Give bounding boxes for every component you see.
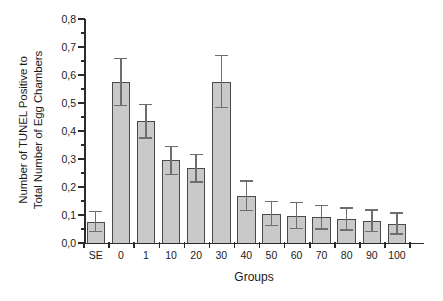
x-axis-tick-label: 70 [316,249,328,261]
error-bar-cap-upper [315,205,328,206]
bar-group [262,19,281,243]
error-bar-cap-lower [215,107,228,108]
error-bar-line [346,208,347,230]
error-bar-cap-upper [265,201,278,202]
x-axis-tick [108,242,109,248]
bar-group [87,19,106,243]
error-bar-line [271,202,272,226]
error-bar-line [246,181,247,211]
bar-group [112,19,131,243]
error-bar-cap-lower [240,210,253,211]
error-bar-cap-upper [89,211,102,212]
x-axis-tick-label: 1 [143,249,149,261]
bar [112,82,131,243]
error-bar-cap-lower [290,228,303,229]
x-axis-tick [133,242,134,248]
error-bar-cap-upper [165,146,178,147]
x-axis-title: Groups [84,270,424,284]
bar-group [212,19,231,243]
x-axis-tick [309,242,310,248]
error-bar-cap-upper [190,154,203,155]
error-bar-line [296,202,297,228]
bar-group [137,19,156,243]
error-bar-line [95,212,96,232]
bar-group [162,19,181,243]
error-bar-line [321,205,322,229]
x-axis-tick-label: 20 [190,249,202,261]
y-axis-tick-label: 0,2 [46,182,76,193]
error-bar-cap-upper [340,207,353,208]
error-bar-line [170,146,171,174]
x-axis-tick [259,242,260,248]
x-axis-tick-label: 0 [118,249,124,261]
error-bar-cap-lower [365,231,378,232]
y-axis-tick-label: 0,8 [46,14,76,25]
error-bar-cap-lower [89,231,102,232]
y-axis-tick-label: 0,5 [46,98,76,109]
y-axis-title-line-1: Number of TUNEL Positive to [16,51,31,209]
x-axis-tick [359,242,360,248]
error-bar-cap-lower [315,228,328,229]
error-bar-cap-lower [165,174,178,175]
y-axis-tick-label: 0,0 [46,238,76,249]
bar-group [363,19,382,243]
chart-figure: Number of TUNEL Positive to Total Number… [0,0,443,301]
plot-area [84,19,424,243]
error-bar-cap-upper [139,104,152,105]
x-axis-tick-label: 80 [341,249,353,261]
error-bar-cap-lower [390,233,403,234]
y-axis-tick-label: 0,3 [46,154,76,165]
x-axis-tick [209,242,210,248]
error-bar-cap-upper [114,58,127,59]
error-bar-line [120,58,121,105]
error-bar-cap-upper [390,212,403,213]
error-bar-line [371,210,372,232]
x-axis-tick [83,242,84,248]
x-axis-tick-label: 30 [215,249,227,261]
bar-group [187,19,206,243]
error-bar-cap-upper [240,180,253,181]
x-axis-tick [234,242,235,248]
x-axis-tick [284,242,285,248]
error-bar-line [221,55,222,107]
error-bar-cap-lower [139,137,152,138]
error-bar-line [195,154,196,182]
error-bar-cap-lower [190,181,203,182]
error-bar-cap-upper [215,55,228,56]
x-axis-tick [159,242,160,248]
error-bar-cap-lower [114,105,127,106]
x-axis-tick [409,242,410,248]
x-axis-tick-label: 90 [366,249,378,261]
y-axis-tick-label: 0,7 [46,42,76,53]
x-axis-tick-label: 60 [291,249,303,261]
x-axis-tick [184,242,185,248]
x-axis-tick [384,242,385,248]
error-bar-line [145,104,146,138]
error-bar-cap-upper [290,202,303,203]
y-axis-tick-labels: 0,00,10,20,30,40,50,60,70,8 [44,0,76,260]
bar [137,121,156,243]
error-bar-line [396,213,397,234]
y-axis-tick-label: 0,6 [46,70,76,81]
x-axis-tick-label: 40 [241,249,253,261]
x-axis-tick-label: 50 [266,249,278,261]
bar-group [388,19,407,243]
x-axis-tick-label: SE [89,249,103,261]
error-bar-cap-upper [365,209,378,210]
x-axis-tick-label: 10 [165,249,177,261]
x-axis-tick [334,242,335,248]
bar-group [312,19,331,243]
error-bar-cap-lower [340,229,353,230]
y-axis-tick-label: 0,1 [46,210,76,221]
bar-group [337,19,356,243]
bar-group [287,19,306,243]
y-axis-tick-label: 0,4 [46,126,76,137]
x-axis-tick-label: 100 [388,249,406,261]
bar-group [237,19,256,243]
error-bar-cap-lower [265,225,278,226]
